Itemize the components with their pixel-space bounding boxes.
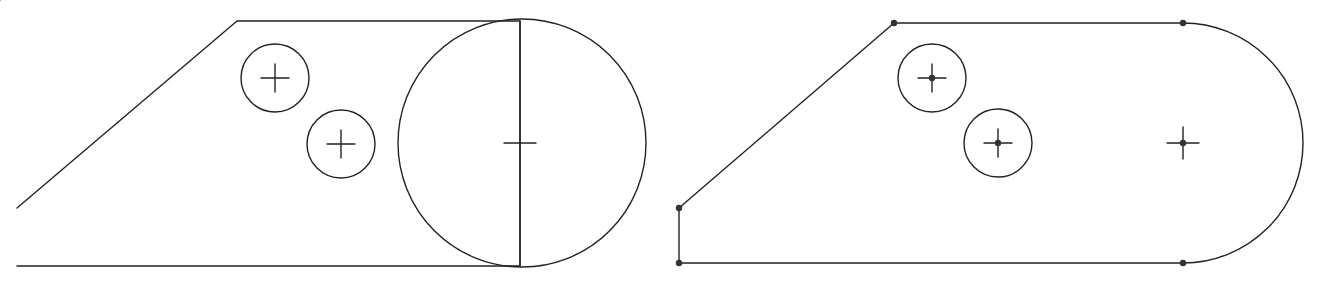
vertex-dot-icon xyxy=(929,75,935,81)
sketch-before xyxy=(0,0,646,267)
vertex-dot-icon xyxy=(676,205,682,211)
hole xyxy=(307,110,375,178)
cad-sketch-svg xyxy=(0,0,1330,285)
before-holes xyxy=(241,44,375,178)
hole xyxy=(241,44,309,112)
vertex-dot-icon xyxy=(995,140,1001,146)
vertex-dot-icon xyxy=(1180,140,1186,146)
vertex-dot-icon xyxy=(891,20,897,26)
sketch-after xyxy=(676,20,1303,266)
before-outline xyxy=(17,21,520,266)
vertex-dot-icon xyxy=(1180,20,1186,26)
vertex-dot-icon xyxy=(1180,260,1186,266)
vertex-dot-icon xyxy=(676,260,682,266)
vertex-dots xyxy=(676,20,1186,266)
drawing-canvas xyxy=(0,0,1330,285)
after-holes xyxy=(898,44,1032,177)
